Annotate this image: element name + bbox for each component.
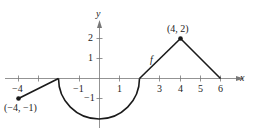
x-tick-label-6: 6 [218,84,223,94]
x-tick-label-4: 4 [178,84,183,94]
x-axis-label: x [240,73,244,83]
x-tick-label-m4: −4 [12,84,23,94]
function-label: f [150,55,153,65]
y-tick-label-2: 2 [88,33,93,43]
y-axis-arrow-icon [97,20,102,28]
point-left [16,96,21,101]
x-tick-label-1: 1 [117,84,122,94]
point-peak [178,36,183,41]
segment-fall [181,39,221,79]
x-tick-label-3: 3 [157,84,162,94]
x-tick-label-5: 5 [198,84,203,94]
segment-rise [140,39,181,79]
y-axis-label: y [96,9,100,19]
point-peak-label: (4, 2) [167,24,189,34]
y-tick-label-m1: −1 [84,93,95,103]
x-tick-label-m1: −1 [73,84,84,94]
point-left-label: (−4, −1) [4,103,37,113]
function-graph [0,0,255,134]
y-tick-label-1: 1 [88,53,93,63]
